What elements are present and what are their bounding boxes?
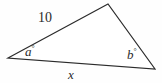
degree-symbol-icon: °: [134, 47, 137, 56]
angle-label-a: a°: [25, 45, 35, 58]
triangle-shape-svg: [0, 0, 162, 83]
degree-symbol-icon: °: [32, 44, 35, 53]
triangle-figure: 10 x a° b°: [0, 0, 162, 83]
side-length-label-10: 10: [38, 11, 52, 25]
angle-label-b: b°: [127, 48, 137, 61]
side-length-label-x: x: [68, 68, 74, 81]
